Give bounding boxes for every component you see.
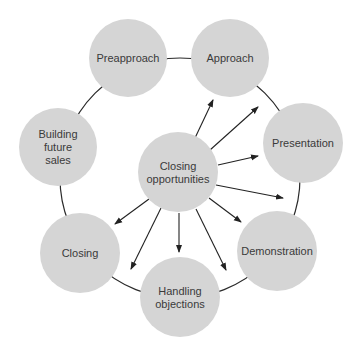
node-label: Approach [206, 52, 253, 64]
arrow-6 [196, 209, 226, 270]
node-label: sales [45, 154, 71, 166]
node-label: Closing [62, 247, 99, 259]
center-node-group: Closingopportunities [138, 132, 218, 212]
node-label: objections [155, 298, 205, 310]
node-preapproach: Preapproach [89, 19, 167, 97]
node-label: Preapproach [97, 52, 160, 64]
node-label: Presentation [272, 137, 334, 149]
node-approach: Approach [191, 19, 269, 97]
node-label: opportunities [147, 173, 210, 185]
node-label: future [44, 141, 72, 153]
node-label: Closing [160, 160, 197, 172]
node-label: Handling [158, 285, 201, 297]
node-label: Demonstration [241, 245, 313, 257]
node-demonstration: Demonstration [237, 211, 317, 291]
arrow-8 [131, 208, 161, 269]
node-handling-objections: Handlingobjections [140, 257, 220, 337]
node-closing-opportunities: Closingopportunities [138, 132, 218, 212]
arrow-1 [195, 100, 213, 138]
node-closing: Closing [40, 213, 120, 293]
arrow-5 [209, 198, 241, 222]
node-presentation: Presentation [263, 103, 343, 183]
arrow-9 [115, 199, 149, 224]
arrow-2 [210, 107, 258, 150]
arrow-3 [218, 156, 258, 165]
arrow-4 [216, 185, 283, 198]
node-building-future-sales: Buildingfuturesales [19, 108, 97, 186]
node-label: Building [38, 128, 77, 140]
selling-process-diagram: PreapproachApproachPresentationDemonstra… [0, 0, 355, 342]
